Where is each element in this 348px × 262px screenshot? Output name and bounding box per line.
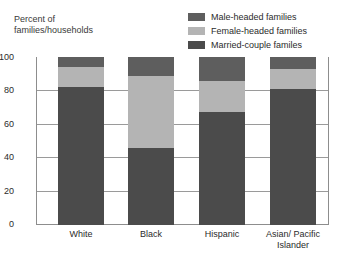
y-tick-80: 80 — [0, 86, 14, 95]
legend-swatch-male-headed — [188, 13, 205, 21]
legend-label-male-headed: Male-headed families — [211, 12, 297, 22]
y-axis-caption: Percent of families/households — [14, 14, 93, 36]
legend-item-married-couple: Married-couple familes — [188, 39, 307, 51]
bar-segment-male-headed[interactable] — [58, 57, 104, 67]
bar-segment-married-couple[interactable] — [128, 148, 174, 225]
legend-swatch-female-headed — [188, 27, 205, 35]
bar-segment-male-headed[interactable] — [270, 57, 316, 69]
legend-label-married-couple: Married-couple familes — [211, 40, 302, 50]
y-tick-0: 0 — [0, 220, 14, 229]
bar-group-black[interactable] — [128, 57, 174, 225]
legend-item-male-headed: Male-headed families — [188, 11, 307, 23]
bar-segment-female-headed[interactable] — [199, 81, 245, 113]
y-tick-60: 60 — [0, 120, 14, 129]
y-tick-40: 40 — [0, 153, 14, 162]
chart-legend: Male-headed families Female-headed famil… — [188, 11, 307, 53]
y-tick-100: 100 — [0, 53, 14, 62]
legend-swatch-married-couple — [188, 41, 205, 49]
bar-segment-married-couple[interactable] — [58, 87, 104, 225]
bar-group-asian[interactable] — [270, 57, 316, 225]
legend-label-female-headed: Female-headed families — [211, 26, 307, 36]
bar-group-white[interactable] — [58, 57, 104, 225]
bar-segment-female-headed[interactable] — [128, 76, 174, 148]
bar-segment-female-headed[interactable] — [270, 69, 316, 89]
bar-segment-male-headed[interactable] — [199, 57, 245, 81]
y-tick-20: 20 — [0, 187, 14, 196]
bar-segment-female-headed[interactable] — [58, 67, 104, 87]
x-axis-labels: White Black Hispanic Asian/ Pacific Isla… — [36, 229, 329, 259]
bar-segment-married-couple[interactable] — [199, 112, 245, 225]
bar-segment-male-headed[interactable] — [128, 57, 174, 75]
bar-group-hispanic[interactable] — [199, 57, 245, 225]
x-label-asian: Asian/ Pacific Islander — [250, 229, 336, 251]
bars-layer — [36, 57, 329, 225]
legend-item-female-headed: Female-headed families — [188, 25, 307, 37]
bar-segment-married-couple[interactable] — [270, 89, 316, 225]
